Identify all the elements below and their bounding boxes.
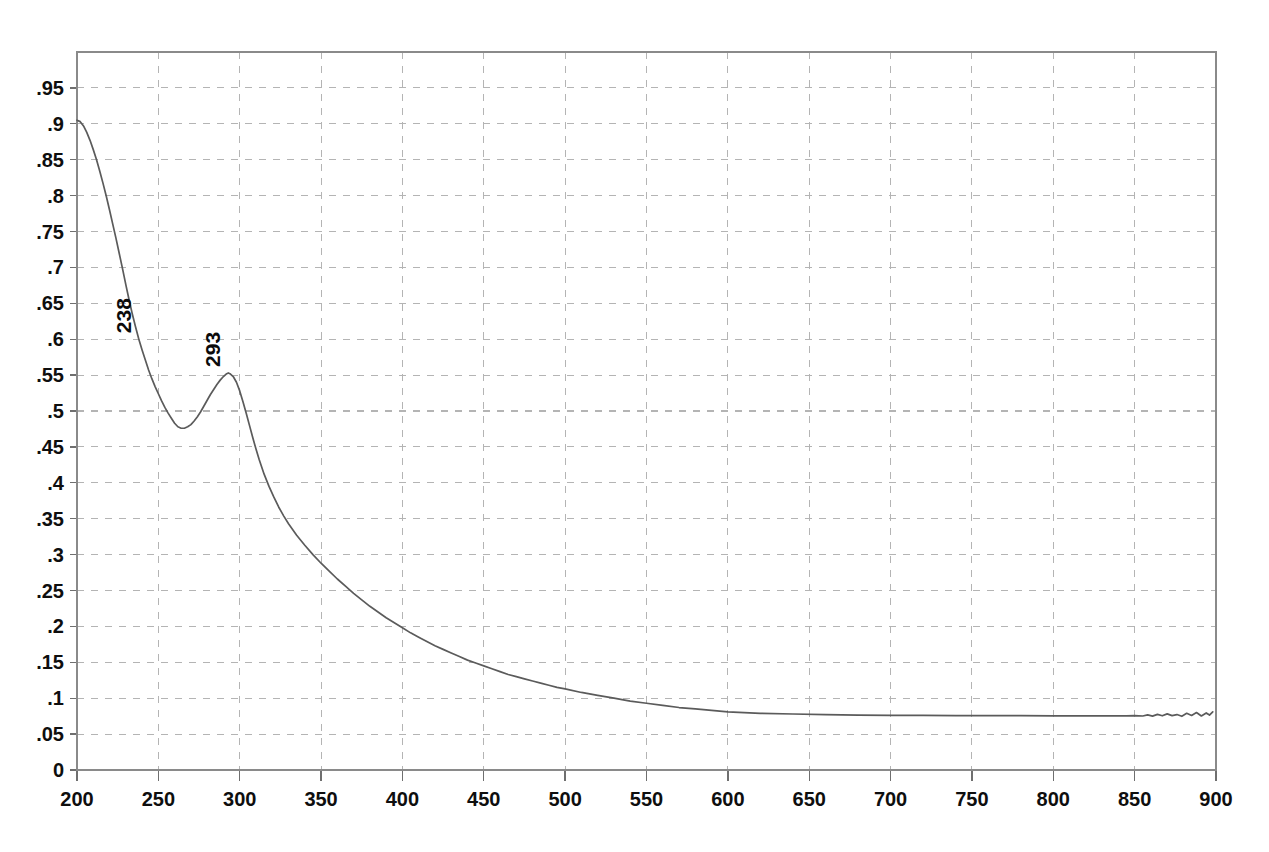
y-axis-tick-label: .45 bbox=[36, 436, 64, 458]
x-axis-tick-label: 800 bbox=[1037, 788, 1070, 810]
peak-annotation-293: 293 bbox=[201, 332, 224, 367]
x-axis-tick-label: 750 bbox=[955, 788, 988, 810]
y-axis-tick-label: .3 bbox=[47, 544, 64, 566]
y-axis-tick-label: .2 bbox=[47, 615, 64, 637]
x-axis-tick-label: 300 bbox=[223, 788, 256, 810]
y-axis-tick-label: .5 bbox=[47, 400, 64, 422]
x-axis-tick-label: 200 bbox=[60, 788, 93, 810]
x-axis-tick-label: 700 bbox=[874, 788, 907, 810]
y-axis-tick-label: .8 bbox=[47, 185, 64, 207]
y-axis-tick-label: .65 bbox=[36, 292, 64, 314]
plot-area: 0.05.1.15.2.25.3.35.4.45.5.55.6.65.7.75.… bbox=[0, 0, 1269, 852]
x-axis-tick-label: 550 bbox=[630, 788, 663, 810]
x-axis-tick-label: 500 bbox=[548, 788, 581, 810]
x-axis-tick-label: 250 bbox=[142, 788, 175, 810]
y-axis-tick-label: .1 bbox=[47, 687, 64, 709]
uv-vis-spectrum-chart: 0.05.1.15.2.25.3.35.4.45.5.55.6.65.7.75.… bbox=[0, 0, 1269, 852]
x-axis-tick-label: 900 bbox=[1199, 788, 1232, 810]
y-axis-tick-label: .7 bbox=[47, 256, 64, 278]
y-axis-tick-label: .15 bbox=[36, 651, 64, 673]
x-axis-tick-label: 450 bbox=[467, 788, 500, 810]
x-axis-tick-label: 350 bbox=[304, 788, 337, 810]
x-axis-tick-label: 400 bbox=[386, 788, 419, 810]
y-axis-tick-label: .25 bbox=[36, 580, 64, 602]
y-axis-tick-label: .85 bbox=[36, 149, 64, 171]
y-axis-tick-label: .4 bbox=[47, 472, 65, 494]
peak-annotation-238: 238 bbox=[112, 298, 135, 333]
y-axis-tick-label: .95 bbox=[36, 77, 64, 99]
x-axis-tick-label: 600 bbox=[711, 788, 744, 810]
y-axis-tick-label: 0 bbox=[53, 759, 64, 781]
y-axis-tick-label: .05 bbox=[36, 723, 64, 745]
y-axis-tick-label: .6 bbox=[47, 328, 64, 350]
y-axis-tick-label: .35 bbox=[36, 508, 64, 530]
y-axis-tick-label: .9 bbox=[47, 113, 64, 135]
x-axis-tick-label: 650 bbox=[793, 788, 826, 810]
x-axis-tick-label: 850 bbox=[1118, 788, 1151, 810]
y-axis-tick-label: .55 bbox=[36, 364, 64, 386]
y-axis-tick-label: .75 bbox=[36, 221, 64, 243]
